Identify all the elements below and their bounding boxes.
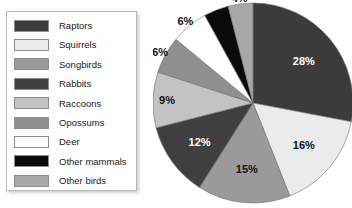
pie-slice-value-label: 15% [236, 163, 258, 175]
pie-chart-svg: 28%16%15%12%9%6%6%4%4% [153, 0, 352, 208]
pie-slice-value-label: 4% [232, 0, 248, 4]
legend-color-swatch [14, 136, 49, 148]
legend-item-label: Other mammals [59, 157, 127, 167]
legend-item-label: Squirrels [59, 40, 97, 50]
legend-item: Other birds [7, 171, 136, 190]
legend-color-swatch [14, 39, 49, 51]
legend-item-label: Rabbits [59, 79, 91, 89]
legend-color-swatch [14, 20, 49, 32]
legend-item: Other mammals [7, 152, 136, 171]
legend-item-label: Songbirds [59, 60, 102, 70]
legend-item: Opossums [7, 113, 136, 132]
pie-slice-value-label: 28% [293, 55, 315, 67]
legend-item: Songbirds [7, 55, 136, 74]
pie-slice-value-label: 12% [189, 136, 211, 148]
pie-slice-value-label: 6% [153, 46, 168, 58]
legend-color-swatch [14, 58, 49, 70]
pie-slice-value-label: 4% [206, 0, 222, 10]
legend-item-label: Deer [59, 137, 80, 147]
legend-item: Raptors [7, 16, 136, 35]
pie-slice-value-label: 6% [177, 15, 193, 27]
legend-list: RaptorsSquirrelsSongbirdsRabbitsRaccoons… [7, 12, 136, 190]
legend-item-label: Raptors [59, 21, 92, 31]
legend-item: Raccoons [7, 94, 136, 113]
legend-color-swatch [14, 175, 49, 187]
legend-color-swatch [14, 155, 49, 167]
legend-color-swatch [14, 78, 49, 90]
legend-item-label: Opossums [59, 118, 104, 128]
pie-slice-value-label: 16% [293, 139, 315, 151]
legend-item: Squirrels [7, 35, 136, 54]
legend-color-swatch [14, 117, 49, 129]
legend-item-label: Raccoons [59, 99, 101, 109]
chart-legend: RaptorsSquirrelsSongbirdsRabbitsRaccoons… [6, 11, 137, 191]
legend-item: Deer [7, 132, 136, 151]
pie-chart: 28%16%15%12%9%6%6%4%4% [153, 0, 352, 208]
legend-item: Rabbits [7, 74, 136, 93]
legend-item-label: Other birds [59, 176, 106, 186]
pie-slice-value-label: 9% [159, 94, 175, 106]
legend-color-swatch [14, 97, 49, 109]
